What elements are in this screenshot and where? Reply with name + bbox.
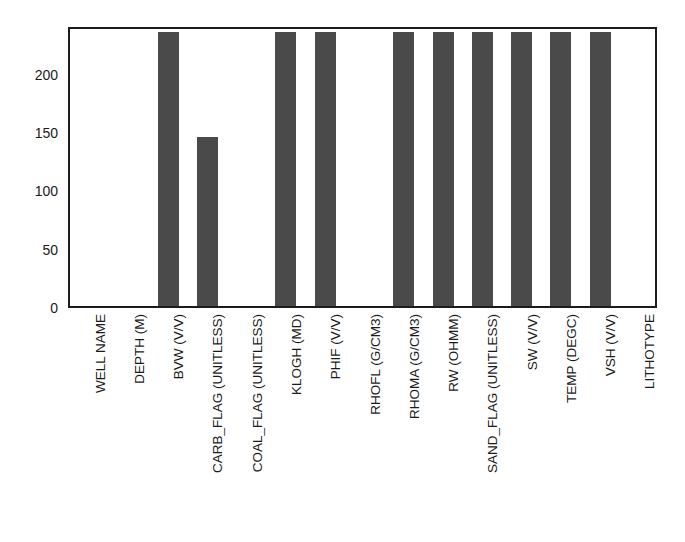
x-axis-tick-label: CARB_FLAG (UNITLESS) [211, 314, 225, 473]
x-axis-tick-label: TEMP (DEGC) [565, 314, 579, 403]
bar [315, 32, 336, 306]
bar [550, 32, 571, 306]
x-axis-tick-label: RHOFL (G/CM3) [369, 314, 383, 415]
bar [433, 32, 454, 306]
x-axis-tick-label: KLOGH (MD) [290, 314, 304, 395]
x-axis-tick-label: WELL NAME [94, 314, 108, 393]
bar-chart: 050100150200 WELL NAMEDEPTH (M)BVW (V/V)… [0, 0, 685, 542]
y-axis-tick-label: 50 [42, 243, 58, 257]
x-axis-tick-label: RHOMA (G/CM3) [408, 314, 422, 419]
x-axis-tick-label: SAND_FLAG (UNITLESS) [486, 314, 500, 473]
y-axis-tick-label: 200 [35, 68, 58, 82]
bar [590, 32, 611, 306]
x-axis-tick-label: LITHOTYPE [643, 314, 657, 389]
bar [511, 32, 532, 306]
y-axis-tick-label: 100 [35, 184, 58, 198]
bar [275, 32, 296, 306]
x-axis-tick-label: VSH (V/V) [604, 314, 618, 376]
bar [158, 32, 179, 306]
bars-layer [70, 29, 655, 306]
x-axis: WELL NAMEDEPTH (M)BVW (V/V)CARB_FLAG (UN… [68, 308, 657, 542]
x-axis-tick-label: PHIF (V/V) [329, 314, 343, 379]
bar [197, 137, 218, 306]
plot-area [68, 27, 657, 308]
bar [472, 32, 493, 306]
bar [393, 32, 414, 306]
x-axis-tick-label: COAL_FLAG (UNITLESS) [251, 314, 265, 472]
y-axis-tick-label: 0 [50, 301, 58, 315]
x-axis-tick-label: SW (V/V) [526, 314, 540, 370]
x-axis-tick-label: BVW (V/V) [172, 314, 186, 379]
y-axis: 050100150200 [0, 0, 68, 542]
x-axis-tick-label: DEPTH (M) [133, 314, 147, 384]
x-axis-tick-label: RW (OHMM) [447, 314, 461, 392]
y-axis-tick-label: 150 [35, 126, 58, 140]
